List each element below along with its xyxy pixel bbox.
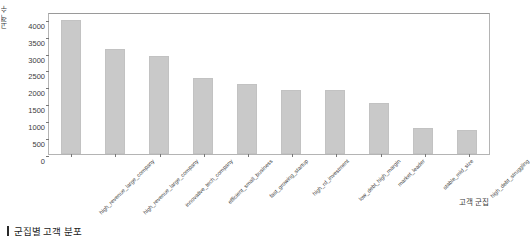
bar-slot	[225, 14, 269, 154]
y-tick-label: 2500	[28, 72, 45, 81]
y-axis-title: 고객 수	[1, 6, 15, 29]
bar-series	[49, 14, 489, 154]
caption-marker-icon	[7, 226, 9, 236]
y-tick-label: 1000	[28, 123, 45, 132]
y-tick-mark	[46, 55, 49, 56]
bar-slot	[357, 14, 401, 154]
x-tick-mark	[425, 154, 426, 157]
bar	[457, 130, 477, 154]
y-tick-label: 1500	[28, 106, 45, 115]
bar	[105, 49, 125, 154]
y-tick-mark	[46, 88, 49, 89]
bar	[281, 90, 301, 154]
x-tick-mark	[115, 154, 116, 157]
x-tick-mark	[71, 154, 72, 157]
figure-caption: 군집별 고객 분포	[7, 224, 82, 238]
bar-slot	[401, 14, 445, 154]
x-tick-mark	[292, 154, 293, 157]
x-tick-label: stable_mid_size	[441, 158, 474, 191]
y-tick-mark	[46, 122, 49, 123]
x-axis-tick-labels: high_revenue_large_companyhigh_revenue_l…	[48, 158, 490, 214]
x-tick-mark	[336, 154, 337, 157]
y-tick-mark	[46, 156, 49, 157]
bar	[413, 128, 433, 154]
x-axis-title: 고객 군집	[459, 196, 489, 207]
plot-area: 05001000150020002500300035004000	[48, 13, 490, 155]
y-tick-label: 3000	[28, 55, 45, 64]
bar-slot	[93, 14, 137, 154]
x-tick-mark	[160, 154, 161, 157]
x-tick-mark	[204, 154, 205, 157]
bar	[193, 78, 213, 154]
bar-slot	[313, 14, 357, 154]
y-tick-label: 2000	[28, 89, 45, 98]
bar-slot	[137, 14, 181, 154]
caption-text: 군집별 고객 분포	[14, 224, 82, 238]
y-tick-label: 0	[41, 157, 45, 166]
x-tick-label: high_rd_investment	[311, 158, 350, 197]
bar-slot	[181, 14, 225, 154]
bar	[61, 20, 81, 154]
x-tick-label: low_debt_high_margin	[358, 158, 402, 202]
y-tick-mark	[46, 38, 49, 39]
x-tick-label: high_debt_struggling	[489, 158, 530, 199]
bar	[237, 84, 257, 154]
bar-slot	[269, 14, 313, 154]
bar-slot	[49, 14, 93, 154]
x-tick-mark	[248, 154, 249, 157]
y-tick-label: 3500	[28, 38, 45, 47]
bar	[149, 56, 169, 154]
x-tick-mark	[469, 154, 470, 157]
y-tick-mark	[46, 139, 49, 140]
y-tick-label: 4000	[28, 21, 45, 30]
y-tick-mark	[46, 105, 49, 106]
y-tick-label: 500	[32, 140, 45, 149]
x-tick-label: efficient_small_business	[226, 158, 273, 205]
y-tick-mark	[46, 21, 49, 22]
bar	[325, 90, 345, 154]
bar	[369, 103, 389, 154]
bar-slot	[445, 14, 489, 154]
y-tick-mark	[46, 71, 49, 72]
x-tick-mark	[381, 154, 382, 157]
x-tick-label: fast_growing_startup	[268, 158, 309, 199]
